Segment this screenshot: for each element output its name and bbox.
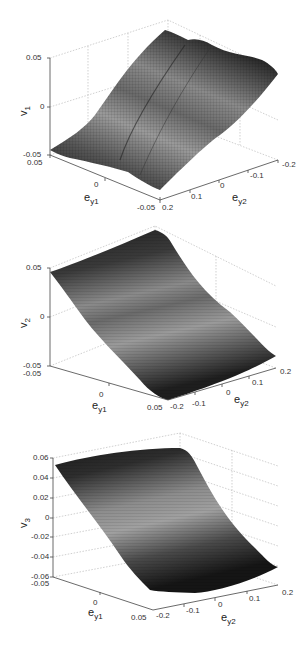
y-tick: 0 bbox=[226, 389, 230, 397]
y-tick: 0.1 bbox=[252, 379, 263, 387]
x-tick: 0 bbox=[99, 391, 103, 399]
x-tick: -0.05 bbox=[137, 204, 155, 212]
y-tick: -0.1 bbox=[192, 400, 206, 408]
y-tick: -0.2 bbox=[156, 612, 170, 620]
x-tick: 0 bbox=[94, 181, 98, 189]
z-tick: 0 bbox=[40, 313, 44, 321]
surface-v3 bbox=[55, 448, 278, 593]
z-axis-label: v2 bbox=[18, 318, 32, 328]
y-tick: -0.2 bbox=[282, 161, 296, 169]
surface-v2 bbox=[50, 230, 276, 400]
z-tick: -0.02 bbox=[31, 533, 49, 541]
x-axis-label: ey1 bbox=[88, 607, 103, 621]
axes bbox=[47, 268, 276, 400]
grid-lines bbox=[50, 226, 276, 368]
z-tick: 0.05 bbox=[26, 264, 42, 272]
y-tick: -0.1 bbox=[186, 607, 200, 615]
z-tick: -0.05 bbox=[23, 362, 41, 370]
x-tick: 0 bbox=[93, 599, 97, 607]
z-tick: 0.05 bbox=[26, 54, 42, 62]
y-tick: 0 bbox=[218, 601, 222, 609]
z-tick: 0.06 bbox=[33, 454, 49, 462]
z-tick: -0.04 bbox=[31, 553, 49, 561]
z-axis-label: v1 bbox=[18, 106, 32, 116]
x-tick: -0.05 bbox=[23, 370, 41, 378]
surface-plot-v1 bbox=[0, 0, 308, 215]
z-tick: 0 bbox=[40, 103, 44, 111]
y-tick: 0 bbox=[220, 182, 224, 190]
x-tick: 0.05 bbox=[27, 159, 43, 167]
x-axis-label: ey1 bbox=[92, 400, 107, 414]
y-tick: 0.2 bbox=[282, 589, 293, 597]
z-tick: 0.04 bbox=[33, 474, 49, 482]
y-tick: 0.2 bbox=[162, 204, 173, 212]
x-tick: -0.05 bbox=[31, 580, 49, 588]
y-axis-label: ey2 bbox=[221, 612, 236, 626]
axes bbox=[50, 458, 278, 610]
y-tick: 0.1 bbox=[249, 595, 260, 603]
x-tick: 0.05 bbox=[131, 614, 147, 622]
x-tick: 0.05 bbox=[147, 404, 163, 412]
z-tick: 0 bbox=[45, 514, 49, 522]
y-tick: -0.1 bbox=[250, 172, 264, 180]
y-axis-label: ey2 bbox=[232, 192, 247, 206]
y-axis-label: ey2 bbox=[234, 394, 249, 408]
z-tick: 0.02 bbox=[33, 494, 49, 502]
y-tick: -0.2 bbox=[170, 403, 184, 411]
plot-v1: 0.05 0 -0.05 0.05 0 -0.05 0.2 0.1 0 -0.1… bbox=[0, 0, 308, 215]
grid-lines bbox=[53, 433, 278, 585]
z-tick: -0.06 bbox=[31, 573, 49, 581]
x-axis-label: ey1 bbox=[84, 192, 99, 206]
y-tick: 0.1 bbox=[191, 193, 202, 201]
y-tick: 0.2 bbox=[280, 368, 291, 376]
z-axis-label: v3 bbox=[18, 518, 32, 528]
